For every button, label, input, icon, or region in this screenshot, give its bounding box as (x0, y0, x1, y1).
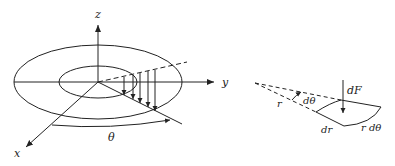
differential-element-figure (255, 80, 381, 126)
inner-arc (316, 100, 341, 112)
dr-label: dr (321, 124, 333, 135)
diagram-canvas: z y x θ dF r dθ dr r dθ (0, 0, 395, 166)
r-dtheta-label: r dθ (361, 122, 381, 133)
dF-label: dF (347, 84, 362, 97)
upper-edge (341, 100, 381, 107)
dtheta-label: dθ (303, 95, 315, 106)
z-axis-label: z (94, 8, 101, 21)
annular-disk-figure (14, 25, 214, 147)
load-arrows (124, 70, 155, 111)
theta-arc (52, 120, 170, 127)
theta-label: θ (108, 131, 115, 144)
x-axis (26, 82, 98, 147)
x-axis-label: x (14, 147, 21, 160)
dtheta-arc (292, 92, 301, 100)
y-axis-label: y (221, 76, 229, 89)
r-label: r (277, 98, 283, 109)
dashed-radial-line (98, 62, 187, 82)
upper-dashed-radius (255, 83, 341, 100)
